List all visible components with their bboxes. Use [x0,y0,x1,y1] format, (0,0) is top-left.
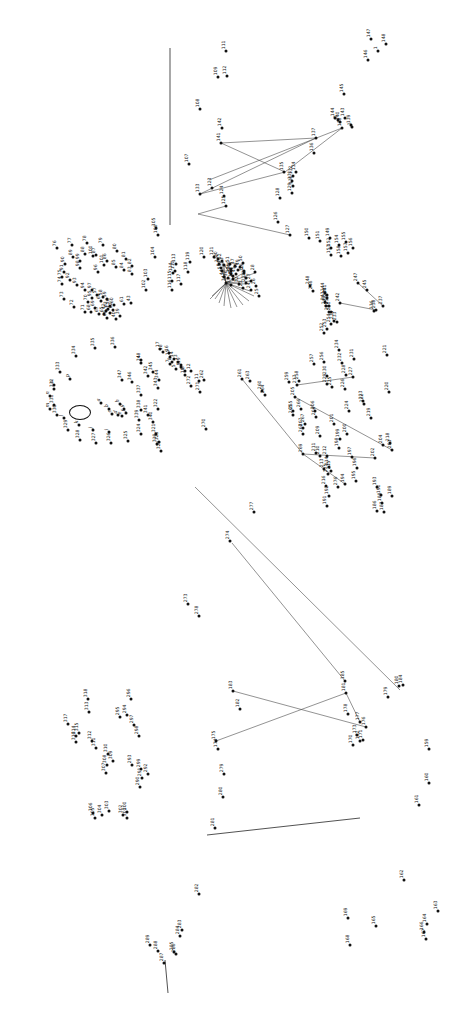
data-point-181[interactable] [345,692,348,695]
data-point-163[interactable] [437,910,440,913]
data-point-87[interactable] [95,254,98,257]
data-point-160[interactable] [428,782,431,785]
data-point-61[interactable] [123,303,126,306]
data-point-283[interactable] [181,929,184,932]
data-point-5[interactable] [175,368,178,371]
data-point-98[interactable] [79,267,82,270]
data-point-127[interactable] [289,234,292,237]
data-point-224[interactable] [348,410,351,413]
data-point-218[interactable] [389,442,392,445]
data-point-253[interactable] [326,328,329,331]
data-point-268[interactable] [302,433,305,436]
data-point-41[interactable] [109,312,112,315]
data-point-140[interactable] [339,121,342,124]
data-point-222[interactable] [363,403,366,406]
letter-node-e[interactable] [121,415,124,418]
data-point-217[interactable] [296,384,299,387]
data-point-280[interactable] [222,796,225,799]
data-point-313[interactable] [88,711,91,714]
data-point-345[interactable] [152,371,155,374]
data-point-126[interactable] [277,221,280,224]
data-point-184[interactable] [402,684,405,687]
data-point-123[interactable] [211,187,214,190]
data-point-257[interactable] [313,363,316,366]
data-point-75[interactable] [61,276,64,279]
data-point-320[interactable] [160,450,163,453]
data-point-173[interactable] [356,734,359,737]
data-point-73[interactable] [63,298,66,301]
data-point-341[interactable] [147,414,150,417]
data-point-167[interactable] [425,938,428,941]
data-point-318[interactable] [87,698,90,701]
data-point-298[interactable] [138,735,141,738]
data-point-299[interactable] [140,768,143,771]
data-point-26[interactable] [255,285,258,288]
data-point-25[interactable] [258,295,261,298]
data-point-1[interactable] [377,50,380,53]
data-point-323[interactable] [158,441,161,444]
data-point-216[interactable] [325,485,328,488]
data-point-324[interactable] [140,433,143,436]
data-point-194[interactable] [344,483,347,486]
data-point-177[interactable] [359,721,362,724]
data-point-326[interactable] [110,442,113,445]
data-point-292[interactable] [147,773,150,776]
data-point-51[interactable] [229,263,232,266]
data-point-103[interactable] [147,278,150,281]
letter-node-l[interactable] [63,417,66,420]
data-point-18[interactable] [162,351,165,354]
data-point-190[interactable] [380,494,383,497]
data-point-178[interactable] [347,713,350,716]
data-point-102[interactable] [145,289,148,292]
data-point-199[interactable] [339,438,342,441]
data-point-34[interactable] [225,282,228,285]
data-point-197[interactable] [351,456,354,459]
data-point-40[interactable] [115,318,118,321]
data-point-153[interactable] [330,254,333,257]
data-point-67[interactable] [98,313,101,316]
data-point-230[interactable] [326,375,329,378]
data-point-221[interactable] [386,354,389,357]
data-point-264[interactable] [264,394,267,397]
data-point-176[interactable] [365,726,368,729]
data-point-161[interactable] [418,804,421,807]
data-point-244[interactable] [324,292,327,295]
data-point-348[interactable] [140,362,143,365]
data-point-130[interactable] [292,185,295,188]
data-point-304[interactable] [101,814,104,817]
data-point-182[interactable] [239,708,242,711]
data-point-311[interactable] [95,747,98,750]
data-point-117[interactable] [180,283,183,286]
data-point-315[interactable] [78,732,81,735]
data-point-151[interactable] [319,240,322,243]
data-point-33[interactable] [230,284,233,287]
data-point-74[interactable] [61,283,64,286]
data-point-128[interactable] [279,197,282,200]
data-point-275[interactable] [327,473,330,476]
data-point-223[interactable] [362,400,365,403]
data-point-111[interactable] [225,50,228,53]
data-point-342[interactable] [147,375,150,378]
data-point-27[interactable] [250,280,253,283]
data-point-266[interactable] [300,408,303,411]
data-point-168[interactable] [349,944,352,947]
data-point-95[interactable] [91,297,94,300]
data-point-238[interactable] [375,309,378,312]
data-point-16[interactable] [168,352,171,355]
data-point-71[interactable] [84,311,87,314]
data-point-254[interactable] [330,323,333,326]
data-point-310[interactable] [107,753,110,756]
data-point-133[interactable] [199,193,202,196]
data-point-66[interactable] [106,317,109,320]
data-point-317[interactable] [67,723,70,726]
data-point-336[interactable] [114,346,117,349]
data-point-272[interactable] [190,385,193,388]
data-point-259[interactable] [288,381,291,384]
data-point-48[interactable] [237,269,240,272]
data-point-270[interactable] [205,428,208,431]
data-point-50[interactable] [242,262,245,265]
data-point-85[interactable] [115,266,118,269]
data-point-316[interactable] [75,741,78,744]
data-point-231[interactable] [353,358,356,361]
letter-node-k[interactable] [78,424,81,427]
